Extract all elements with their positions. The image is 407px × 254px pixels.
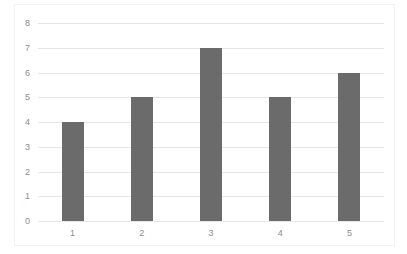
- x-tick-label: 5: [334, 228, 364, 238]
- bar-3[interactable]: [200, 48, 222, 221]
- y-tick-label: 2: [10, 167, 30, 177]
- x-tick-label: 3: [196, 228, 226, 238]
- y-tick-label: 0: [10, 216, 30, 226]
- gridline: [38, 221, 384, 222]
- x-tick-label: 2: [127, 228, 157, 238]
- y-tick-label: 7: [10, 43, 30, 53]
- y-tick-label: 8: [10, 18, 30, 28]
- x-tick-label: 1: [58, 228, 88, 238]
- gridline: [38, 23, 384, 24]
- bar-1[interactable]: [62, 122, 84, 221]
- bar-5[interactable]: [338, 73, 360, 222]
- bar-4[interactable]: [269, 97, 291, 221]
- bar-2[interactable]: [131, 97, 153, 221]
- y-tick-label: 4: [10, 117, 30, 127]
- x-tick-label: 4: [265, 228, 295, 238]
- y-tick-label: 5: [10, 92, 30, 102]
- y-tick-label: 3: [10, 142, 30, 152]
- y-tick-label: 1: [10, 191, 30, 201]
- plot-area: [38, 23, 384, 221]
- y-tick-label: 6: [10, 68, 30, 78]
